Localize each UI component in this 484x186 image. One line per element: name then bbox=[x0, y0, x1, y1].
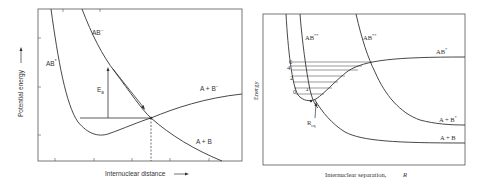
x-arrow-icon bbox=[185, 173, 189, 176]
right-panel: 6 4 2 0 4 AB** AB** AB* A + B* A + B Req… bbox=[252, 14, 465, 178]
ab-star-curve-right bbox=[286, 14, 465, 101]
right-x-axis-label: Internuclear separation, R bbox=[325, 171, 407, 178]
label-ab-star-right: AB* bbox=[436, 47, 448, 55]
svg-text:Potential energy: Potential energy bbox=[17, 69, 25, 117]
svg-text:Internuclear distance: Internuclear distance bbox=[105, 170, 166, 177]
activation-arrowhead-icon bbox=[107, 67, 110, 71]
vibrational-levels bbox=[291, 62, 372, 94]
ab-double-star-curve-2 bbox=[356, 14, 465, 125]
label-a-plus-b-star: A + B* bbox=[439, 115, 458, 123]
crossing-point-right bbox=[310, 100, 312, 102]
x-symbol-r: R bbox=[402, 171, 407, 178]
level-2: 2 bbox=[290, 74, 293, 81]
ab-star-curve bbox=[51, 9, 242, 135]
req-arrow bbox=[315, 104, 316, 118]
label-ab-minus: AB− bbox=[92, 28, 104, 36]
label-a-plus-b: A + B bbox=[196, 138, 212, 145]
right-y-axis-label: Energy bbox=[252, 81, 259, 100]
label-r-eq: Req bbox=[307, 119, 316, 128]
left-ticks bbox=[38, 9, 209, 161]
label-activation-energy: Ea bbox=[97, 86, 104, 95]
svg-text:Internuclear separation,: Internuclear separation, bbox=[325, 171, 387, 178]
diagram-canvas: AB− AB* Ea A + B− A + B Potential energy… bbox=[0, 0, 484, 186]
label-a-plus-b-minus: A + B− bbox=[200, 84, 219, 92]
left-panel: AB− AB* Ea A + B− A + B Potential energy… bbox=[17, 9, 242, 177]
left-x-axis-label: Internuclear distance bbox=[105, 170, 189, 177]
reaction-path-arrow bbox=[113, 69, 144, 108]
label-ab-star: AB* bbox=[46, 59, 57, 67]
label-ab-double-star-2: AB** bbox=[363, 33, 377, 41]
label-ab-double-star-1: AB** bbox=[305, 33, 319, 41]
level-0: 0 bbox=[293, 88, 296, 95]
left-y-axis-label: Potential energy bbox=[17, 47, 25, 117]
y-arrow-icon bbox=[20, 47, 23, 51]
label-a-plus-b-right: A + B bbox=[440, 134, 456, 141]
